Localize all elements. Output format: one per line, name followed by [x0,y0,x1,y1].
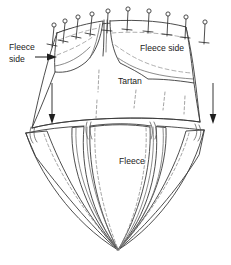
down-arrow-right [210,83,217,124]
label-fleece-bottom: Fleece [119,156,145,166]
label-fleece-side-right: Fleece side [140,43,184,53]
diagram-root: Tartan and fleece joining diagram [0,0,231,265]
label-tartan: Tartan [118,76,142,86]
upper-tartan-assembly [32,20,200,128]
lower-fleece-assembly [26,122,204,250]
label-fleece-side-left-line2: side [9,54,25,64]
label-fleece-side-left-line1: Fleece [9,42,35,52]
sewing-diagram-figure: Tartan and fleece joining diagram [0,0,231,265]
pin-right-6 [199,20,209,44]
